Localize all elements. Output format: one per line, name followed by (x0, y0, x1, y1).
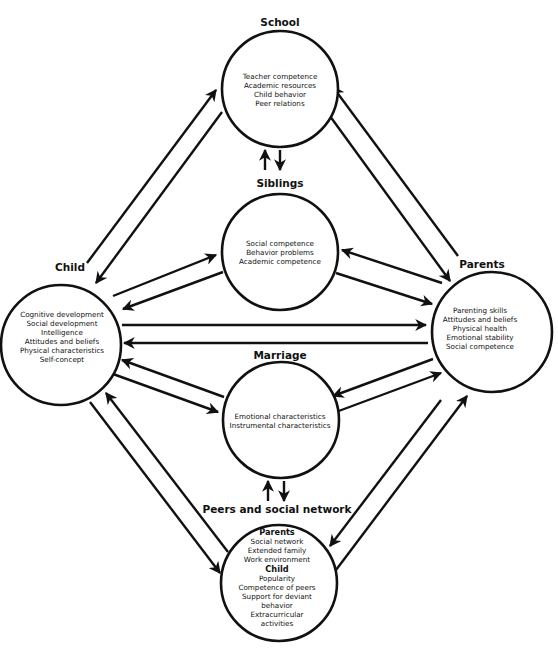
node-school-item: Academic resources (244, 81, 316, 90)
node-child-item: Cognitive development (20, 310, 104, 319)
influence-diagram: School Teacher competence Academic resou… (0, 0, 558, 652)
edge-peers-to-child (106, 393, 228, 552)
edge-school-to-child (96, 112, 222, 283)
node-peers-item: Social network (251, 537, 305, 546)
node-peers-item: Work environment (244, 555, 310, 564)
edge-peers-to-parents (336, 396, 467, 570)
edge-marriage-to-child (122, 360, 224, 397)
node-siblings: Siblings Social competence Behavior prob… (222, 177, 338, 310)
node-parents-item: Parenting skills (453, 306, 507, 315)
node-school: School Teacher competence Academic resou… (222, 16, 338, 147)
node-siblings-item: Academic competence (239, 257, 321, 266)
edge-parents-to-marriage (333, 359, 433, 396)
node-peers-item: activities (261, 619, 294, 628)
node-marriage-label: Marriage (253, 349, 306, 361)
node-peers-item: Competence of peers (238, 583, 315, 592)
edge-child-to-school (87, 90, 216, 263)
edge-child-to-siblings (113, 255, 216, 296)
node-child-item: Attitudes and beliefs (25, 337, 100, 346)
node-siblings-label: Siblings (256, 177, 303, 189)
node-child-item: Physical characteristics (20, 346, 104, 355)
node-school-label: School (260, 16, 299, 28)
edge-school-to-parents (327, 112, 450, 281)
node-peers-child-heading: Child (265, 564, 288, 574)
node-marriage-item: Instrumental characteristics (230, 421, 331, 430)
node-peers-item: Popularity (259, 574, 296, 583)
node-parents-item: Social competence (446, 342, 515, 351)
node-marriage: Marriage Emotional characteristics Instr… (223, 349, 339, 478)
node-school-item: Child behavior (254, 90, 306, 99)
node-peers-item: Extracurricular (250, 610, 303, 619)
node-peers-parents-heading: Parents (259, 527, 295, 537)
node-peers-item: Extended family (248, 546, 307, 555)
node-peers-item: Support for deviant (242, 592, 312, 601)
node-marriage-item: Emotional characteristics (234, 412, 325, 421)
node-peers-label: Peers and social network (202, 503, 352, 515)
node-parents-item: Physical health (453, 324, 507, 333)
node-parents-item: Emotional stability (447, 333, 515, 342)
node-parents: Parents Parenting skills Attitudes and b… (432, 258, 552, 392)
node-siblings-item: Social competence (246, 239, 315, 248)
node-peers-item: behavior (261, 601, 293, 610)
edge-siblings-to-parents (336, 273, 432, 304)
edge-child-to-marriage (113, 374, 218, 412)
edge-parents-to-siblings (342, 250, 442, 283)
node-child-item: Self-concept (40, 355, 85, 364)
node-siblings-item: Behavior problems (246, 248, 314, 257)
node-school-item: Teacher competence (242, 72, 318, 81)
node-parents-item: Attitudes and beliefs (443, 315, 518, 324)
node-child-item: Social development (26, 319, 97, 328)
edge-siblings-to-child (123, 272, 223, 309)
node-parents-label: Parents (459, 258, 505, 270)
edge-parents-to-school (333, 87, 458, 256)
edges (87, 87, 467, 573)
node-school-item: Peer relations (255, 99, 305, 108)
edge-marriage-to-parents (336, 373, 441, 412)
node-child-label: Child (55, 261, 85, 273)
edge-parents-to-peers (330, 400, 441, 546)
edge-child-to-peers (90, 402, 220, 573)
node-peers: Peers and social network Parents Social … (202, 503, 352, 641)
node-child-item: Intelligence (41, 328, 83, 337)
node-child: Child Cognitive development Social devel… (1, 261, 121, 405)
